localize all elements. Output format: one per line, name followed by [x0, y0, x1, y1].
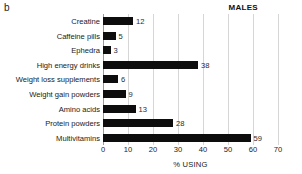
x-tick-label: 10 [124, 145, 132, 155]
bar [103, 17, 133, 25]
bar-value-label: 9 [129, 90, 133, 99]
category-label: Protein powders [45, 119, 100, 128]
x-tick-label: 60 [249, 145, 257, 155]
figure-panel-b: b MALES Creatine12Caffeine pills5Ephedra… [0, 0, 302, 174]
gridline-70 [278, 14, 279, 145]
bar [103, 90, 126, 98]
category-label: Caffeine pills [57, 31, 100, 40]
bar [103, 134, 251, 142]
bar-row: High energy drinks38 [103, 58, 278, 73]
bar-row: Weight loss supplements6 [103, 72, 278, 87]
bar-value-label: 12 [136, 17, 144, 26]
bar-row: Multivitamins59 [103, 130, 278, 145]
plot-area: Creatine12Caffeine pills5Ephedra3High en… [103, 14, 278, 145]
bar-row: Ephedra3 [103, 43, 278, 58]
bar-value-label: 13 [139, 104, 147, 113]
category-label: Weight loss supplements [16, 75, 100, 84]
x-axis-ticks: 010203040506070 [103, 145, 278, 157]
panel-label: b [4, 2, 10, 14]
category-label: Weight gain powders [29, 90, 100, 99]
x-tick-label: 40 [199, 145, 207, 155]
category-label: Multivitamins [56, 133, 100, 142]
bar-value-label: 38 [201, 60, 209, 69]
category-label: High energy drinks [37, 60, 100, 69]
chart-title: MALES [229, 3, 259, 12]
bar [103, 105, 136, 113]
bar [103, 75, 118, 83]
bar-value-label: 59 [254, 133, 262, 142]
x-axis-title: % USING [103, 160, 278, 169]
bar-row: Amino acids13 [103, 101, 278, 116]
bar-row: Caffeine pills5 [103, 29, 278, 44]
bar-row: Protein powders28 [103, 116, 278, 131]
bar-value-label: 6 [121, 75, 125, 84]
category-label: Amino acids [59, 104, 100, 113]
category-label: Creatine [71, 17, 100, 26]
x-tick-label: 70 [274, 145, 282, 155]
bar-value-label: 5 [119, 31, 123, 40]
bar-value-label: 28 [176, 119, 184, 128]
bar [103, 46, 111, 54]
bar [103, 119, 173, 127]
bar-row: Weight gain powders9 [103, 87, 278, 102]
bar-value-label: 3 [114, 46, 118, 55]
x-tick-label: 20 [149, 145, 157, 155]
bar [103, 61, 198, 69]
bar [103, 32, 116, 40]
bar-row: Creatine12 [103, 14, 278, 29]
category-label: Ephedra [71, 46, 100, 55]
x-tick-label: 50 [224, 145, 232, 155]
x-tick-label: 0 [101, 145, 105, 155]
x-tick-label: 30 [174, 145, 182, 155]
